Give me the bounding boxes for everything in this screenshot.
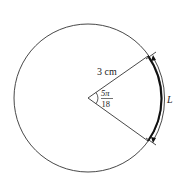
radius-upper (88, 56, 148, 98)
arrowhead-up-icon (151, 55, 156, 61)
radius-lower (88, 98, 148, 141)
circle-sector-diagram: 3 cm 5π 18 L (0, 0, 187, 188)
angle-denominator: 18 (102, 99, 111, 109)
angle-arc (96, 92, 98, 103)
angle-numerator: 5π (101, 88, 110, 98)
radius-label: 3 cm (97, 66, 117, 77)
arc-length-label: L (166, 94, 173, 105)
